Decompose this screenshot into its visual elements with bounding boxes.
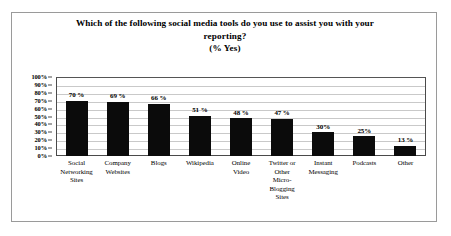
- bar-value-label: 25%: [357, 127, 371, 135]
- y-axis-tick-mark: [48, 108, 52, 109]
- bar: [148, 104, 170, 156]
- y-axis-tick-label: 80%: [35, 90, 47, 96]
- y-axis-tick-mark: [48, 92, 52, 93]
- y-axis-tick-mark: [48, 84, 52, 85]
- bar-slot: 13 %: [385, 77, 426, 156]
- x-axis-category-label: CompanyWebsites: [97, 159, 138, 176]
- x-axis-category-line: Online: [220, 159, 261, 168]
- y-axis-tick-mark: [48, 148, 52, 149]
- y-axis-tick-mark: [48, 140, 52, 141]
- x-axis-category-line: Wikipedia: [179, 159, 220, 168]
- bar-value-label: 69 %: [110, 92, 125, 100]
- y-axis-tick-label: 40%: [35, 121, 47, 127]
- x-axis-category-line: Sites: [262, 193, 303, 202]
- y-axis-tick-mark: [48, 124, 52, 125]
- x-axis-category-label: OnlineVideo: [220, 159, 261, 176]
- x-axis-category-label: Podcasts: [344, 159, 385, 168]
- y-axis-tick-mark: [48, 116, 52, 117]
- y-axis-tick-label: 70%: [35, 97, 47, 103]
- bar: [230, 118, 252, 156]
- bar-slot: 69 %: [97, 77, 138, 156]
- y-axis-tick-mark: [48, 100, 52, 101]
- x-axis-labels: SocialNetworkingSitesCompanyWebsitesBlog…: [56, 159, 426, 219]
- bar-value-label: 47 %: [274, 109, 289, 117]
- bar-slot: 25%: [344, 77, 385, 156]
- x-axis-category-line: Messaging: [303, 168, 344, 177]
- x-axis-category-line: Twitter or: [262, 159, 303, 168]
- bar-value-label: 66 %: [151, 94, 166, 102]
- bar: [189, 116, 211, 156]
- y-axis-tick-label: 60%: [35, 105, 47, 111]
- x-axis-category-label: Wikipedia: [179, 159, 220, 168]
- bar-value-label: 70 %: [69, 91, 84, 99]
- x-axis-category-line: Social: [56, 159, 97, 168]
- x-axis-category-line: Blogs: [138, 159, 179, 168]
- bar-value-label: 13 %: [398, 136, 413, 144]
- y-axis-tick-label: 10%: [35, 145, 47, 151]
- bars-layer: 70 %69 %66 %51 %48 %47 %30%25%13 %: [56, 77, 426, 156]
- y-axis-tick-label: 30%: [35, 129, 47, 135]
- y-axis-tick-mark: [48, 77, 52, 78]
- bar-slot: 51 %: [179, 77, 220, 156]
- x-axis-category-label: Twitter orOtherMicro-BloggingSites: [262, 159, 303, 202]
- bar-slot: 30%: [303, 77, 344, 156]
- chart-title-line-2: reporting?: [32, 30, 418, 43]
- bar-value-label: 51 %: [192, 106, 207, 114]
- bar-value-label: 48 %: [233, 109, 248, 117]
- bar-slot: 48 %: [220, 77, 261, 156]
- x-axis-category-line: Sites: [56, 176, 97, 185]
- x-axis-category-line: Company: [97, 159, 138, 168]
- x-axis-category-label: InstantMessaging: [303, 159, 344, 176]
- bar-slot: 70 %: [56, 77, 97, 156]
- bar: [353, 136, 375, 156]
- y-axis-tick-mark: [48, 132, 52, 133]
- bar-slot: 66 %: [138, 77, 179, 156]
- y-axis-tick-label: 0%: [38, 153, 47, 159]
- x-axis-category-line: Video: [220, 168, 261, 177]
- chart-title-line-1: Which of the following social media tool…: [32, 17, 418, 30]
- x-axis-category-line: Instant: [303, 159, 344, 168]
- x-axis-category-line: Podcasts: [344, 159, 385, 168]
- chart-title-line-3: (% Yes): [32, 42, 418, 55]
- x-axis-category-line: Blogging: [262, 185, 303, 194]
- y-axis: 0%10%20%30%40%50%60%70%80%90%100%: [12, 73, 54, 161]
- x-axis-category-line: Websites: [97, 168, 138, 177]
- y-axis-tick-label: 50%: [35, 113, 47, 119]
- bar-value-label: 30%: [316, 123, 330, 131]
- bar: [107, 102, 129, 157]
- y-axis-tick-label: 100%: [31, 74, 47, 80]
- y-axis-tick-mark: [48, 156, 52, 157]
- x-axis-category-line: Micro-: [262, 176, 303, 185]
- chart-title: Which of the following social media tool…: [32, 17, 418, 55]
- bar: [312, 132, 334, 156]
- bar: [66, 101, 88, 156]
- x-axis-category-label: Blogs: [138, 159, 179, 168]
- chart-frame: Which of the following social media tool…: [11, 12, 437, 222]
- bar: [394, 146, 416, 156]
- x-axis-category-label: SocialNetworkingSites: [56, 159, 97, 185]
- x-axis-category-line: Other: [385, 159, 426, 168]
- y-axis-tick-label: 90%: [35, 82, 47, 88]
- bar-slot: 47 %: [262, 77, 303, 156]
- x-axis-category-label: Other: [385, 159, 426, 168]
- x-axis-category-line: Networking: [56, 168, 97, 177]
- x-axis-category-line: Other: [262, 168, 303, 177]
- y-axis-tick-label: 20%: [35, 137, 47, 143]
- bar: [271, 119, 293, 156]
